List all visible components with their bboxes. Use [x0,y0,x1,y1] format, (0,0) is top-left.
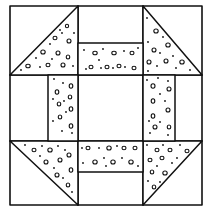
strip-left [48,75,78,141]
triangle-bottom-left [10,141,78,205]
triangle-top-right [143,6,202,75]
strip-bottom [78,141,143,172]
strip-right [143,75,175,141]
triangle-top-left [10,6,78,75]
quilt-block-drawing [0,0,207,211]
